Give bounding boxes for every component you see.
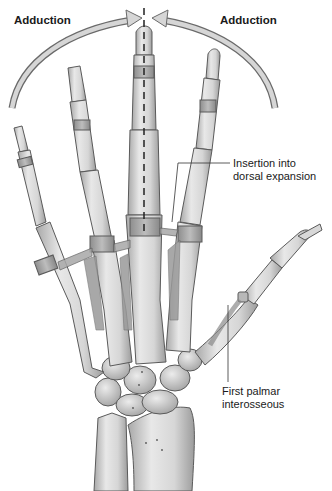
insertion-label: Insertion into dorsal expansion xyxy=(233,157,316,183)
adduction-label-right: Adduction xyxy=(220,14,277,27)
ulna-bone xyxy=(94,413,128,491)
radius-bone xyxy=(128,407,194,491)
first-palmar-label-line2: interosseous xyxy=(222,398,284,411)
middle-finger xyxy=(126,8,166,364)
hand-illustration xyxy=(0,0,332,491)
thumb-bones xyxy=(195,224,322,365)
insertion-label-line2: dorsal expansion xyxy=(233,170,316,183)
adduction-label-left: Adduction xyxy=(14,14,71,27)
insertion-label-line1: Insertion into xyxy=(233,157,316,170)
first-palmar-label: First palmar interosseous xyxy=(222,385,284,411)
anatomy-figure: Adduction Adduction Insertion into dorsa… xyxy=(0,0,332,491)
first-palmar-label-line1: First palmar xyxy=(222,385,284,398)
